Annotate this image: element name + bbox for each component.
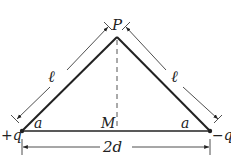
base-length-label: 2d <box>102 138 122 156</box>
apex-label: P <box>111 16 123 34</box>
left-angle-label: a <box>34 115 42 131</box>
left-side-length-label: ℓ <box>48 67 55 86</box>
left-dimension-tick-top <box>104 22 112 30</box>
right-side-line <box>117 37 210 131</box>
right-dimension-tick-top <box>122 22 130 30</box>
left-dimension-arrow-upper <box>67 27 108 70</box>
midpoint-label: M <box>100 115 116 131</box>
right-charge-label: −q <box>212 127 231 143</box>
diagram-svg: P +q −q M ℓ ℓ a a 2d <box>0 0 231 167</box>
left-dimension-tick-bottom <box>11 115 19 123</box>
dipole-triangle-diagram: P +q −q M ℓ ℓ a a 2d <box>0 0 231 167</box>
right-side-length-label: ℓ <box>171 67 178 86</box>
right-angle-label: a <box>181 115 189 131</box>
right-dimension-arrow-upper <box>126 27 166 70</box>
left-charge-label: +q <box>1 127 22 143</box>
